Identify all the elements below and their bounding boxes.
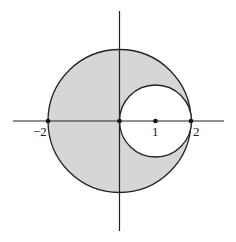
point-origin xyxy=(117,119,122,124)
region-diagram: −2 1 2 xyxy=(0,0,236,242)
label-two: 2 xyxy=(193,124,200,139)
label-neg-two: −2 xyxy=(33,124,47,139)
point-neg-two xyxy=(46,119,51,124)
label-one: 1 xyxy=(152,124,159,139)
point-two xyxy=(189,119,194,124)
point-one xyxy=(153,119,158,124)
